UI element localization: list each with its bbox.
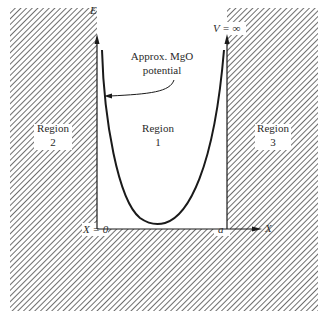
annotation-line-1: Approx. MgO: [131, 50, 193, 62]
x-axis-label: X: [264, 222, 273, 234]
mgo-potential-curve: [102, 50, 224, 224]
region-2-name: Region: [37, 122, 69, 134]
right-wall-position-label: a: [218, 223, 224, 235]
wall-potential-label: V = ∞: [213, 22, 240, 34]
region-1-number: 1: [155, 136, 161, 148]
annotation-line-2: potential: [143, 64, 182, 76]
region-2-number: 2: [50, 136, 56, 148]
region-3-number: 3: [270, 136, 276, 148]
y-axis-label: E: [89, 4, 97, 16]
annotation-leader-line: [110, 80, 174, 96]
potential-well-diagram: E X X = 0 a V = ∞ Approx. MgO potential …: [0, 0, 325, 320]
region-3-name: Region: [257, 122, 289, 134]
origin-label: X = 0: [82, 223, 109, 235]
region-1-name: Region: [142, 122, 174, 134]
